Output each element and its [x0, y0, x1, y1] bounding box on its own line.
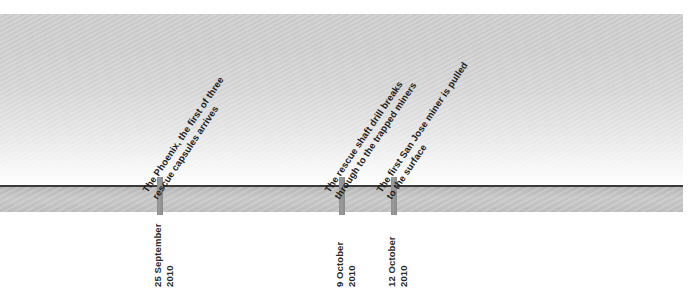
- event-date-line: 2010: [164, 265, 175, 287]
- event-date-line: 12 October: [386, 236, 397, 287]
- event-date: 9 October: [334, 242, 345, 287]
- event-date: 25 September: [152, 223, 163, 287]
- event-date-year: 2010: [398, 265, 409, 287]
- event-date-year: 2010: [164, 265, 175, 287]
- event-date-line: 2010: [346, 265, 357, 287]
- timeline-figure: The Phoenix, the first of three rescue c…: [0, 0, 693, 302]
- event-date-year: 2010: [346, 265, 357, 287]
- event-date: 12 October: [386, 236, 397, 287]
- event-date-line: 25 September: [152, 223, 163, 287]
- event-date-line: 9 October: [334, 242, 345, 287]
- event-date-line: 2010: [398, 265, 409, 287]
